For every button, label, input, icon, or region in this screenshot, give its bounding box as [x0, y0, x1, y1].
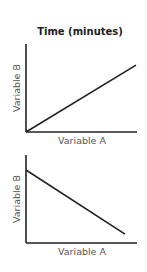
series-line	[26, 170, 125, 234]
x-axis-label: Variable A	[58, 135, 106, 146]
y-axis-label: Variable B	[11, 175, 22, 223]
figure-title: Time (minutes)	[0, 26, 147, 37]
chart-negative: Variable A Variable B	[0, 150, 147, 272]
chart-positive: Variable A Variable B	[0, 40, 147, 150]
y-axis-label: Variable B	[11, 64, 22, 112]
series-line	[26, 65, 136, 132]
x-axis-label: Variable A	[58, 246, 106, 257]
